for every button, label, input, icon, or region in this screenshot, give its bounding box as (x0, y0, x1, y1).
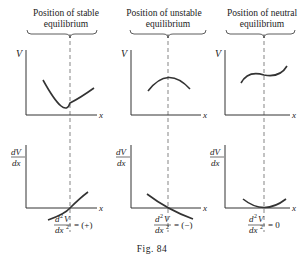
title-stable-line1: Position of stable (33, 8, 99, 18)
svg-text:= 0: = 0 (268, 220, 280, 230)
curve-v-stable (43, 80, 94, 108)
svg-text:V: V (164, 214, 171, 224)
label-x-stable-bottom: x (98, 203, 103, 213)
title-unstable-line2: equilibrium (146, 19, 191, 29)
svg-text:dx: dx (155, 225, 164, 235)
label-dv-unstable: dV (116, 147, 128, 157)
label-x-unstable-top: x (202, 110, 207, 120)
axes-dv-neutral (225, 145, 290, 208)
label-dx-unstable: dx (117, 158, 126, 168)
label-v-neutral: V (215, 48, 223, 59)
svg-text:2: 2 (254, 213, 257, 219)
svg-text:2: 2 (60, 213, 63, 219)
svg-text:= (−): = (−) (174, 220, 192, 230)
label-v-unstable: V (121, 48, 129, 59)
label-x-unstable-bottom: x (202, 203, 207, 213)
svg-text:dx: dx (249, 225, 258, 235)
figure-caption: Fig. 84 (137, 244, 167, 254)
svg-text:2: 2 (166, 224, 169, 230)
svg-text:= (+): = (+) (74, 220, 92, 230)
second-derivative-stable: d 2 V dx 2 = (+) (55, 213, 92, 235)
svg-text:dx: dx (55, 225, 64, 235)
axes-v-stable (26, 50, 97, 115)
label-x-neutral-top: x (291, 110, 296, 120)
curve-v-neutral (241, 66, 287, 83)
label-dv-neutral: dV (210, 147, 222, 157)
label-x-stable-top: x (98, 110, 103, 120)
title-neutral-line1: Position of neutral (227, 8, 298, 18)
equilibrium-diagram: Position of stable equilibrium Position … (0, 0, 305, 264)
curve-dv-neutral (243, 199, 286, 208)
label-v-stable: V (16, 48, 24, 59)
brace-stable (27, 30, 97, 38)
label-dx-stable: dx (12, 158, 21, 168)
label-dx-neutral: dx (211, 158, 220, 168)
axes-dv-unstable (131, 145, 201, 208)
svg-text:2: 2 (66, 224, 69, 230)
brace-neutral (226, 30, 295, 38)
title-stable-line2: equilibrium (44, 19, 89, 29)
axes-v-unstable (131, 50, 201, 115)
svg-text:2: 2 (160, 213, 163, 219)
svg-text:2: 2 (260, 224, 263, 230)
curve-v-unstable (148, 77, 190, 91)
axes-dv-stable (26, 145, 97, 208)
label-x-neutral-bottom: x (291, 203, 296, 213)
label-dv-stable: dV (11, 147, 23, 157)
curve-dv-unstable (147, 194, 193, 219)
axes-v-neutral (225, 50, 290, 115)
title-neutral-line2: equilibrium (240, 19, 285, 29)
second-derivative-neutral: d 2 V dx 2 = 0 (249, 213, 280, 235)
title-unstable-line1: Position of unstable (126, 8, 201, 18)
